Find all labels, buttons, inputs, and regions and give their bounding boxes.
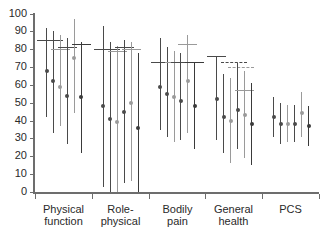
data-point-marker <box>51 79 55 83</box>
y-tick-label: 20 <box>0 150 27 161</box>
data-point-marker <box>222 115 226 119</box>
reference-line-dashed <box>221 62 247 63</box>
category-label-line2: physical <box>92 215 149 227</box>
y-tick-label: 50 <box>0 97 27 108</box>
y-tick-mark <box>30 121 34 122</box>
data-point-marker <box>129 101 133 105</box>
range-bar <box>74 19 75 114</box>
range-bar <box>187 35 188 133</box>
category-label-line2: function <box>35 215 92 227</box>
y-tick-label: 10 <box>0 168 27 179</box>
x-axis-category-label: Bodilypain <box>149 203 206 227</box>
data-point-marker <box>250 122 254 126</box>
x-axis-tick <box>35 194 36 199</box>
y-tick-mark <box>30 67 34 68</box>
y-tick-label: 60 <box>0 79 27 90</box>
range-bar <box>117 46 118 192</box>
x-axis-tick <box>205 194 206 199</box>
reference-line-dashed <box>228 67 254 68</box>
data-point-marker <box>108 117 112 121</box>
y-tick-mark <box>30 14 34 15</box>
range-bar <box>160 38 161 129</box>
category-label-line2: pain <box>149 215 206 227</box>
data-point-marker <box>79 95 83 99</box>
data-point-marker <box>165 92 169 96</box>
y-tick-label: 100 <box>0 8 27 19</box>
y-tick-label: 40 <box>0 115 27 126</box>
range-bar <box>131 42 132 181</box>
whisker-cap <box>207 56 226 57</box>
y-tick-label: 0 <box>0 186 27 197</box>
data-point-marker <box>158 85 162 89</box>
data-point-marker <box>101 104 105 108</box>
range-bar <box>223 74 224 153</box>
range-bar <box>67 38 68 143</box>
data-point-marker <box>272 115 276 119</box>
data-point-marker <box>243 113 247 117</box>
category-label-line1: Bodily <box>149 203 206 215</box>
data-point-marker <box>286 122 290 126</box>
category-label-line1: General <box>205 203 262 215</box>
data-point-marker <box>293 122 297 126</box>
x-axis-category-label: Generalhealth <box>205 203 262 227</box>
range-bar <box>237 63 238 149</box>
data-point-marker <box>186 79 190 83</box>
range-bar <box>180 53 181 140</box>
x-axis-tick <box>262 194 263 199</box>
y-tick-mark <box>30 138 34 139</box>
y-tick-mark <box>30 174 34 175</box>
category-label-line2: health <box>205 215 262 227</box>
category-label-line1: PCS <box>262 203 319 215</box>
y-tick-label: 80 <box>0 43 27 54</box>
data-point-marker <box>122 110 126 114</box>
whisker-cap <box>122 49 141 50</box>
data-point-marker <box>45 69 49 73</box>
range-bar <box>138 53 139 192</box>
chart-container: 0102030405060708090100PhysicalfunctionRo… <box>0 0 327 235</box>
y-tick-mark <box>30 49 34 50</box>
data-point-marker <box>136 126 140 130</box>
data-point-marker <box>58 85 62 89</box>
y-tick-mark <box>30 85 34 86</box>
y-tick-label: 90 <box>0 25 27 36</box>
x-axis-category-label: Role-physical <box>92 203 149 227</box>
x-axis-tick <box>92 194 93 199</box>
category-label-line1: Role- <box>92 203 149 215</box>
whisker-cap <box>178 44 197 45</box>
data-point-marker <box>215 97 219 101</box>
y-tick-mark <box>30 156 34 157</box>
whisker-cap <box>185 62 204 63</box>
data-point-marker <box>72 56 76 60</box>
y-tick-mark <box>30 31 34 32</box>
whisker-cap <box>72 44 91 45</box>
data-point-marker <box>115 120 119 124</box>
y-tick-label: 70 <box>0 61 27 72</box>
plot-area: 0102030405060708090100PhysicalfunctionRo… <box>0 0 327 235</box>
data-point-marker <box>307 124 311 128</box>
x-axis-tick <box>149 194 150 199</box>
y-tick-mark <box>30 192 34 193</box>
data-point-marker <box>172 95 176 99</box>
category-label-line1: Physical <box>35 203 92 215</box>
data-point-marker <box>236 108 240 112</box>
x-axis-tick <box>319 194 320 199</box>
x-axis-category-label: Physicalfunction <box>35 203 92 227</box>
data-point-marker <box>229 119 233 123</box>
data-point-marker <box>193 104 197 108</box>
y-tick-mark <box>30 103 34 104</box>
data-point-marker <box>279 122 283 126</box>
x-axis-category-label: PCS <box>262 203 319 215</box>
data-point-marker <box>179 99 183 103</box>
y-tick-label: 30 <box>0 132 27 143</box>
data-point-marker <box>65 94 69 98</box>
